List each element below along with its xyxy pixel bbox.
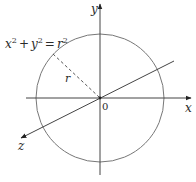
radius-label: r bbox=[65, 72, 71, 85]
radius-line bbox=[53, 54, 99, 97]
z-axis bbox=[21, 61, 174, 138]
sphere-cross-section-diagram: y x z 0 r x2+y2=r2 bbox=[0, 0, 196, 182]
origin-point bbox=[99, 97, 102, 100]
z-axis-label: z bbox=[17, 139, 25, 153]
y-axis-label: y bbox=[90, 2, 98, 16]
origin-label: 0 bbox=[102, 101, 108, 112]
x-axis-label: x bbox=[185, 101, 192, 115]
svg-text:x2+y2=r2: x2+y2=r2 bbox=[5, 36, 68, 51]
circle-equation: x2+y2=r2 bbox=[5, 36, 68, 51]
